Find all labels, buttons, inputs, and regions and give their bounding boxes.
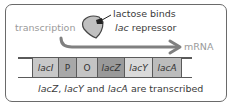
caption-laca: lacA: [108, 83, 128, 94]
repressor-text: repressor: [129, 22, 177, 33]
caption-lacy: lacY: [64, 83, 84, 94]
caption-and: and: [84, 83, 108, 94]
caption-lacz: lacZ: [38, 83, 58, 94]
promoter-p: P: [58, 58, 76, 77]
mrna-label: mRNA: [184, 41, 213, 52]
gene-laci: lacI: [32, 58, 58, 77]
caption-rest: are transcribed: [128, 83, 204, 94]
gene-laca: lacA: [152, 58, 182, 77]
gene-lacy: lacY: [124, 58, 152, 77]
transcription-arrow: [61, 38, 178, 47]
pointer-line: [102, 15, 111, 20]
operator-o: O: [76, 58, 97, 77]
transcription-label: transcription: [15, 22, 75, 33]
caption: lacZ, lacY and lacA are transcribed: [38, 83, 203, 94]
lactose-binds-label: lactose binds: [113, 8, 176, 19]
gene-lacz: lacZ: [97, 58, 124, 77]
lac-italic: lac: [115, 22, 129, 33]
lac-repressor-label: lac repressor: [115, 22, 176, 33]
